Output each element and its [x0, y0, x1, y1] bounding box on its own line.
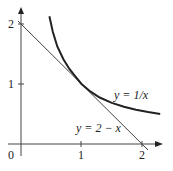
x-axis-arrow-icon	[155, 141, 163, 147]
y-axis-arrow-icon	[18, 7, 24, 14]
tangent-line-label: y = 2 − x	[76, 122, 121, 134]
plot-svg	[0, 0, 173, 171]
origin-label: 0	[8, 149, 14, 161]
y-tick-label-1: 1	[8, 78, 14, 90]
x-tick-label-1: 1	[78, 149, 84, 161]
y-tick-label-2: 2	[8, 18, 14, 30]
x-tick-label-2: 2	[139, 149, 145, 161]
diagram: 0 1 2 1 2 y = 1/x y = 2 − x	[0, 0, 173, 171]
hyperbola-label: y = 1/x	[114, 89, 148, 101]
